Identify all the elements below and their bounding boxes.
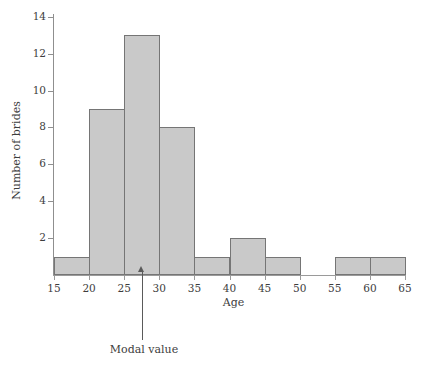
histogram-bar xyxy=(89,109,125,275)
y-tick-label-text: 6 xyxy=(20,158,46,168)
x-tick-label: 15 xyxy=(39,282,69,294)
y-tick-label-text: 10 xyxy=(20,85,46,95)
y-tick-label: 10 xyxy=(20,85,46,95)
histogram-bar xyxy=(159,127,195,275)
x-tick-label: 50 xyxy=(285,282,315,294)
histogram-bar xyxy=(54,257,90,275)
histogram-bar xyxy=(370,257,406,275)
x-tick-label: 35 xyxy=(179,282,209,294)
y-tick-label: 8 xyxy=(20,121,46,131)
x-tick-mark xyxy=(370,275,371,280)
y-tick-label: 4 xyxy=(20,195,46,205)
x-tick-mark xyxy=(194,275,195,280)
y-tick-mark xyxy=(48,127,54,128)
y-tick-label-text: 12 xyxy=(20,48,46,58)
histogram-bar xyxy=(124,35,160,275)
y-tick-mark xyxy=(48,91,54,92)
y-tick-mark xyxy=(48,54,54,55)
x-tick-mark xyxy=(335,275,336,280)
histogram-figure: 2468101214 1520253035404550556065 Modal … xyxy=(0,0,431,371)
x-tick-mark xyxy=(405,275,406,280)
y-tick-mark xyxy=(48,17,54,18)
y-tick-mark xyxy=(48,164,54,165)
x-tick-mark xyxy=(300,275,301,280)
y-tick-label-text: 2 xyxy=(20,232,46,242)
y-tick-mark xyxy=(48,201,54,202)
x-tick-label: 25 xyxy=(109,282,139,294)
x-tick-mark xyxy=(89,275,90,280)
x-tick-mark xyxy=(124,275,125,280)
y-tick-mark xyxy=(48,238,54,239)
histogram-bar xyxy=(335,257,371,275)
y-tick-label: 14 xyxy=(20,11,46,21)
x-tick-mark xyxy=(54,275,55,280)
y-tick-label-text: 8 xyxy=(20,121,46,131)
x-tick-label: 30 xyxy=(144,282,174,294)
modal-value-label: Modal value xyxy=(110,343,178,356)
x-tick-label: 65 xyxy=(390,282,420,294)
y-axis-title: Number of brides xyxy=(10,91,23,211)
y-tick-label-text: 14 xyxy=(20,11,46,21)
plot-area: 2468101214 1520253035404550556065 Modal … xyxy=(0,0,431,371)
y-tick-label: 6 xyxy=(20,158,46,168)
x-tick-mark xyxy=(230,275,231,280)
y-tick-label: 12 xyxy=(20,48,46,58)
histogram-bar xyxy=(230,238,266,275)
histogram-bar xyxy=(194,257,230,275)
y-tick-label-text: 4 xyxy=(20,195,46,205)
x-tick-mark xyxy=(159,275,160,280)
y-tick-label: 2 xyxy=(20,232,46,242)
histogram-bar xyxy=(265,257,301,275)
x-tick-label: 20 xyxy=(74,282,104,294)
x-tick-label: 55 xyxy=(320,282,350,294)
x-tick-label: 60 xyxy=(355,282,385,294)
x-tick-label: 45 xyxy=(250,282,280,294)
x-axis-title-text: Age xyxy=(223,296,245,309)
x-tick-mark xyxy=(265,275,266,280)
x-axis-title: Age xyxy=(0,296,431,309)
x-tick-label: 40 xyxy=(215,282,245,294)
